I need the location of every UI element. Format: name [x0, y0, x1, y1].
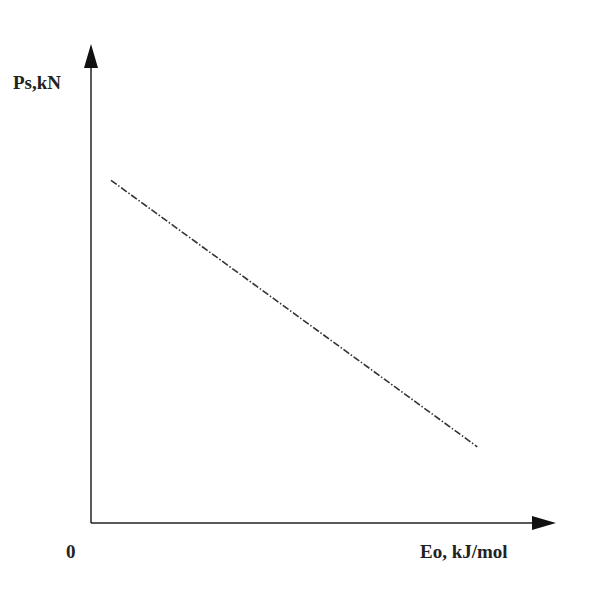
y-axis-arrow-icon: [84, 44, 98, 68]
origin-label: 0: [66, 541, 76, 562]
y-axis-label: Ps,kN: [13, 72, 61, 93]
series-layer: [111, 180, 477, 447]
chart: Ps,kN Eo, kJ/mol 0: [0, 0, 590, 592]
x-axis-arrow-icon: [532, 516, 556, 530]
series-line-0: [111, 180, 477, 447]
x-axis-label: Eo, kJ/mol: [420, 541, 508, 562]
